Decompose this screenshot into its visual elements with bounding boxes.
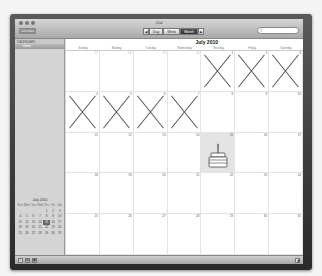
- day-number: 30: [264, 214, 267, 218]
- mini-day[interactable]: 30: [50, 231, 57, 237]
- cross-out-mark-icon: [102, 94, 131, 130]
- day-cell[interactable]: 30: [168, 51, 202, 92]
- day-cell[interactable]: 24: [269, 173, 303, 214]
- day-cell[interactable]: 8: [201, 92, 235, 133]
- day-cell[interactable]: 30: [235, 214, 269, 255]
- day-number: 27: [162, 214, 165, 218]
- day-number: 28: [196, 214, 199, 218]
- day-number: 11: [95, 133, 98, 137]
- weekday-label: Sunday: [66, 46, 100, 50]
- day-number: 27: [95, 51, 98, 55]
- mini-week-row: 25262728293031: [17, 231, 63, 237]
- day-number: 9: [265, 92, 267, 96]
- weekday-label: Wednesday: [168, 46, 202, 50]
- day-number: 26: [128, 214, 131, 218]
- day-cell[interactable]: 12: [100, 133, 134, 174]
- day-number: 30: [196, 51, 199, 55]
- resize-grip-icon[interactable]: ◢: [295, 258, 300, 263]
- day-number: 29: [162, 51, 165, 55]
- day-number: 10: [298, 92, 301, 96]
- day-cell[interactable]: 2: [235, 51, 269, 92]
- bottom-toolbar: + ▤ ▦ ◢: [15, 255, 303, 264]
- tab-month[interactable]: Month: [180, 28, 198, 35]
- day-cell[interactable]: 28: [100, 51, 134, 92]
- month-grid: 2728293012345678910111213141516171819202…: [66, 51, 303, 255]
- day-cell[interactable]: 25: [66, 214, 100, 255]
- sidebar: CALENDARS Home July 2010 SunMonTueWedThu…: [15, 39, 65, 255]
- day-number: 12: [128, 133, 131, 137]
- day-number: 29: [230, 214, 233, 218]
- cross-out-mark-icon: [271, 53, 300, 89]
- day-cell[interactable]: 10: [269, 92, 303, 133]
- day-number: 21: [196, 173, 199, 177]
- day-cell[interactable]: 16: [235, 133, 269, 174]
- weekday-label: Saturday: [269, 46, 303, 50]
- mini-day[interactable]: 31: [56, 231, 63, 237]
- day-cell[interactable]: 28: [168, 214, 202, 255]
- day-cell[interactable]: 20: [134, 173, 168, 214]
- day-cell[interactable]: 6: [134, 92, 168, 133]
- day-cell[interactable]: 9: [235, 92, 269, 133]
- cross-out-mark-icon: [203, 53, 232, 89]
- search-input[interactable]: Q-: [257, 27, 299, 34]
- add-calendar-button[interactable]: +: [18, 258, 23, 263]
- show-notifications-button[interactable]: ▦: [32, 258, 37, 263]
- birthday-cake-icon: [208, 143, 228, 169]
- calendars-button[interactable]: Calendars: [19, 28, 36, 34]
- day-cell[interactable]: 21: [168, 173, 202, 214]
- window-title: iCal: [15, 20, 303, 25]
- day-cell[interactable]: 29: [134, 51, 168, 92]
- mini-calendar: July 2010 SunMonTueWedThuFriSat123456789…: [17, 198, 63, 236]
- day-cell[interactable]: 18: [66, 173, 100, 214]
- day-number: 16: [264, 133, 267, 137]
- day-cell[interactable]: 13: [134, 133, 168, 174]
- day-number: 17: [298, 133, 301, 137]
- day-cell[interactable]: 19: [100, 173, 134, 214]
- view-switcher: ◀ Day Week Month ▶: [143, 28, 204, 35]
- day-cell[interactable]: 29: [201, 214, 235, 255]
- day-number: 20: [162, 173, 165, 177]
- tab-day[interactable]: Day: [149, 28, 163, 35]
- cross-out-mark-icon: [170, 94, 199, 130]
- cross-out-mark-icon: [237, 53, 266, 89]
- day-cell[interactable]: 4: [66, 92, 100, 133]
- day-cell[interactable]: 3: [269, 51, 303, 92]
- cross-out-mark-icon: [136, 94, 165, 130]
- day-cell[interactable]: 22: [201, 173, 235, 214]
- month-view: July 2010 SundayMondayTuesdayWednesdayTh…: [66, 39, 303, 255]
- day-cell[interactable]: 31: [269, 214, 303, 255]
- mini-day[interactable]: 28: [37, 231, 44, 237]
- day-number: 25: [95, 214, 98, 218]
- weekday-label: Friday: [235, 46, 269, 50]
- day-cell[interactable]: 27: [66, 51, 100, 92]
- day-number: 13: [162, 133, 165, 137]
- day-cell[interactable]: 17: [269, 133, 303, 174]
- day-cell[interactable]: 1: [201, 51, 235, 92]
- day-number: 31: [298, 214, 301, 218]
- day-number: 15: [230, 133, 233, 137]
- title-bar: Calendars iCal ◀ Day Week Month ▶ Q-: [15, 19, 303, 39]
- cross-out-mark-icon: [68, 94, 97, 130]
- day-cell[interactable]: 5: [100, 92, 134, 133]
- day-cell[interactable]: 14: [168, 133, 202, 174]
- day-cell[interactable]: 23: [235, 173, 269, 214]
- day-number: 8: [232, 92, 234, 96]
- weekday-label: Thursday: [201, 46, 235, 50]
- day-cell[interactable]: 11: [66, 133, 100, 174]
- weekday-label: Monday: [100, 46, 134, 50]
- day-number: 23: [264, 173, 267, 177]
- day-number: 19: [128, 173, 131, 177]
- next-arrow-icon[interactable]: ▶: [198, 28, 204, 35]
- day-number: 28: [128, 51, 131, 55]
- sidebar-item-home[interactable]: Home: [15, 44, 64, 49]
- day-cell[interactable]: 15: [201, 133, 235, 174]
- mini-day[interactable]: 26: [24, 231, 31, 237]
- tab-week[interactable]: Week: [163, 28, 180, 35]
- day-cell[interactable]: 27: [134, 214, 168, 255]
- day-cell[interactable]: 7: [168, 92, 202, 133]
- day-cell[interactable]: 26: [100, 214, 134, 255]
- day-number: 22: [230, 173, 233, 177]
- show-mini-calendar-button[interactable]: ▤: [25, 258, 30, 263]
- weekday-label: Tuesday: [134, 46, 168, 50]
- day-number: 18: [95, 173, 98, 177]
